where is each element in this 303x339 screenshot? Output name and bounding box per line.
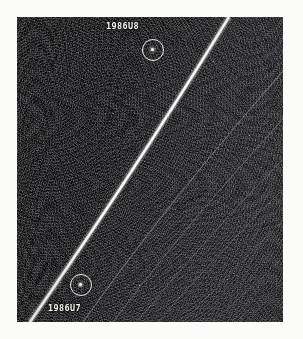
moon-1986u7 bbox=[79, 283, 82, 286]
moon-1986u8 bbox=[151, 48, 154, 51]
photo-frame: 1986U8 1986U7 bbox=[0, 0, 303, 339]
ring-system-graphic bbox=[17, 17, 283, 322]
label-1986u7: 1986U7 bbox=[48, 303, 81, 313]
label-1986u8: 1986U8 bbox=[106, 21, 139, 31]
astronomical-plate: 1986U8 1986U7 bbox=[17, 17, 283, 322]
